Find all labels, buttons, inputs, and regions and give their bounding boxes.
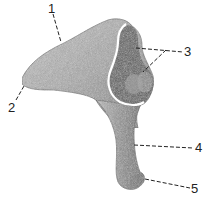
label-5: 5	[191, 182, 198, 195]
diagram-canvas: 1 2 3 4 5	[0, 0, 207, 201]
label-1: 1	[48, 2, 55, 15]
label-2: 2	[8, 101, 15, 114]
label-3: 3	[184, 45, 191, 58]
bone-illustration	[0, 0, 207, 201]
label-4: 4	[195, 141, 202, 154]
